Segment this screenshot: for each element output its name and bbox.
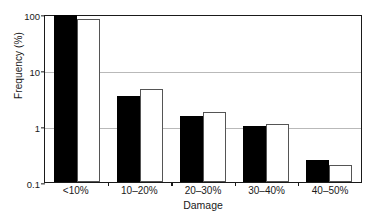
y-tick-label: 10 — [5, 67, 45, 78]
bar-group — [298, 16, 361, 182]
y-tick-label: 1 — [5, 123, 45, 134]
bar — [203, 112, 226, 182]
bar — [266, 124, 289, 182]
y-tick-label: 0.1 — [5, 179, 45, 190]
x-axis-title: Damage — [44, 199, 362, 211]
bar-groups — [45, 16, 361, 182]
bar-chart-figure: Frequency (%) 0.1110100 <10%10–20%20–30%… — [0, 0, 376, 219]
bar — [54, 15, 77, 182]
plot-area: 0.1110100 — [44, 15, 362, 183]
y-tick-label: 100 — [5, 11, 45, 22]
bar — [329, 165, 352, 182]
bar-group — [45, 16, 108, 182]
x-tick-label: 30–40% — [235, 185, 299, 196]
bar — [77, 19, 100, 182]
x-tick-label: 20–30% — [171, 185, 235, 196]
bar-group — [171, 16, 234, 182]
y-axis-title: Frequency (%) — [13, 6, 24, 126]
bar — [117, 96, 140, 182]
bar-group — [108, 16, 171, 182]
bar — [243, 126, 266, 182]
x-tick-label: 40–50% — [298, 185, 362, 196]
bar — [180, 116, 203, 182]
bar — [140, 89, 163, 182]
x-tick-label: <10% — [44, 185, 108, 196]
bar-group — [235, 16, 298, 182]
bar — [306, 160, 329, 182]
x-tick-label: 10–20% — [108, 185, 172, 196]
x-axis-tick-labels: <10%10–20%20–30%30–40%40–50% — [44, 185, 362, 196]
